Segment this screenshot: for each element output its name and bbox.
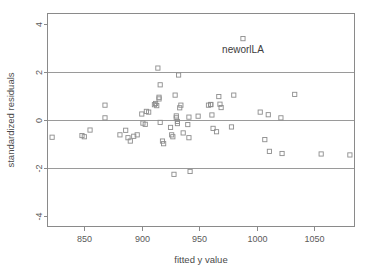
residual-scatter-chart: 85090095010001050 420-2-4 neworlLA fitte…	[0, 0, 365, 275]
scatter-point	[266, 113, 270, 117]
scatter-point	[229, 125, 233, 129]
scatter-point	[232, 93, 236, 97]
scatter-point	[160, 139, 164, 143]
scatter-point	[162, 142, 166, 146]
point-label-neworlla: neworlLA	[222, 44, 264, 55]
x-axis-ticks: 85090095010001050	[77, 227, 325, 244]
scatter-point	[118, 133, 122, 137]
y-tick-label: 0	[34, 118, 44, 123]
scatter-point	[176, 73, 180, 77]
scatter-point	[179, 103, 183, 107]
scatter-point	[210, 113, 214, 117]
scatter-point	[124, 128, 128, 132]
scatter-point	[319, 152, 323, 156]
scatter-point	[172, 172, 176, 176]
x-axis-title: fitted y value	[174, 254, 227, 265]
scatter-point	[217, 94, 221, 98]
scatter-point	[279, 116, 283, 120]
scatter-point	[196, 114, 200, 118]
scatter-point	[168, 125, 172, 129]
scatter-point	[50, 135, 54, 139]
y-tick-label: -4	[34, 212, 44, 220]
scatter-point	[241, 37, 245, 41]
scatter-point	[348, 153, 352, 157]
point-annotations: neworlLA	[222, 44, 264, 55]
scatter-point	[263, 138, 267, 142]
scatter-point	[140, 112, 144, 116]
y-axis-ticks: 420-2-4	[34, 22, 48, 221]
scatter-point	[178, 106, 182, 110]
y-tick-label: 2	[34, 70, 44, 75]
scatter-point	[103, 116, 107, 120]
y-axis-title: standardized residuals	[5, 72, 16, 167]
scatter-point	[187, 115, 191, 119]
x-tick-label: 850	[77, 234, 92, 244]
plot-canvas: 85090095010001050 420-2-4 neworlLA fitte…	[0, 0, 365, 275]
scatter-point	[181, 131, 185, 135]
data-points	[50, 37, 352, 177]
x-tick-label: 1050	[304, 234, 324, 244]
scatter-point	[188, 169, 192, 173]
scatter-point	[258, 110, 262, 114]
scatter-point	[187, 136, 191, 140]
scatter-point	[293, 92, 297, 96]
x-tick-label: 950	[192, 234, 207, 244]
scatter-point	[88, 128, 92, 132]
gridlines	[48, 73, 355, 169]
x-tick-label: 1000	[247, 234, 267, 244]
scatter-point	[173, 93, 177, 97]
y-tick-label: 4	[34, 22, 44, 27]
scatter-point	[186, 122, 190, 126]
y-tick-label: -2	[34, 164, 44, 172]
scatter-point	[156, 66, 160, 70]
scatter-point	[103, 103, 107, 107]
x-tick-label: 900	[135, 234, 150, 244]
scatter-point	[280, 151, 284, 155]
scatter-point	[267, 149, 271, 153]
scatter-point	[158, 83, 162, 87]
